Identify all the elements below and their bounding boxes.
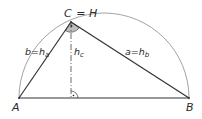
right-angle-dot-foot bbox=[73, 95, 75, 97]
vertex-c-point bbox=[70, 21, 72, 23]
vertex-a-point bbox=[18, 97, 20, 99]
label-vertex-b: B bbox=[186, 101, 194, 114]
label-side-b: b=ha bbox=[25, 46, 49, 59]
thales-triangle-diagram: C = H A B b=ha hc a=hb bbox=[0, 0, 202, 119]
vertex-b-point bbox=[188, 97, 190, 99]
side-b-ac bbox=[19, 22, 71, 98]
side-a-bc bbox=[71, 22, 189, 98]
label-side-a: a=hb bbox=[125, 46, 150, 59]
label-c-equals-h: C = H bbox=[64, 7, 97, 20]
label-vertex-a: A bbox=[11, 101, 20, 114]
right-angle-marker-foot bbox=[71, 91, 78, 98]
label-altitude-hc: hc bbox=[74, 46, 84, 59]
